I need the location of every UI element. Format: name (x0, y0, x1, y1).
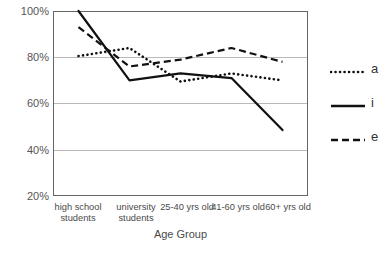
legend-swatch-dashed-icon (330, 136, 366, 144)
x-cat-line2: students (44, 213, 112, 224)
legend-swatch-dotted-icon (330, 68, 366, 76)
legend-entry-e: e (330, 126, 390, 160)
x-cat-line1: high school (54, 202, 101, 212)
x-cat-line2: students (105, 213, 167, 224)
line-chart: 100% 80% 60% 40% 20% high school student… (0, 0, 392, 263)
y-axis-tick-label-80: 80% (6, 51, 49, 63)
legend-label-i: i (371, 95, 374, 110)
legend-swatch-solid-icon (330, 102, 366, 110)
legend-label-e: e (371, 129, 378, 144)
legend: a i e (330, 58, 390, 160)
legend-entry-i: i (330, 92, 390, 126)
y-axis-tick-label-100: 100% (6, 5, 49, 17)
x-axis-title: Age Group (53, 228, 308, 240)
x-axis-category-high-school-students: high school students (44, 202, 112, 223)
y-axis-tick-label-40: 40% (6, 144, 49, 156)
x-axis-category-60-plus-yrs-old: 60+ yrs old (257, 202, 319, 213)
plot-area-frame (53, 11, 308, 196)
legend-label-a: a (371, 61, 378, 76)
y-axis-tick-label-20: 20% (6, 190, 49, 202)
x-cat-line1: 60+ yrs old (265, 202, 311, 212)
legend-entry-a: a (330, 58, 390, 92)
x-cat-line1: university (116, 202, 155, 212)
y-axis-tick-label-60: 60% (6, 97, 49, 109)
